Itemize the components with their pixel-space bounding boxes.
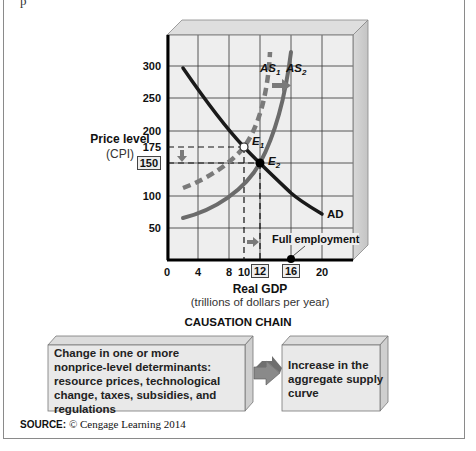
source-line: SOURCE: © Cengage Learning 2014 <box>20 418 186 430</box>
x-tick-16: 16 <box>279 265 303 277</box>
x-tick-12: 12 <box>248 265 272 277</box>
e2-label: E2 <box>268 155 280 170</box>
e1-label: E1 <box>252 135 264 150</box>
y-tick-300: 300 <box>131 60 161 72</box>
y-tick-100: 100 <box>131 190 161 202</box>
chart-box-top-face <box>167 20 368 35</box>
x-tick-20: 20 <box>310 266 334 278</box>
as1-label: AS1 <box>260 62 280 77</box>
chain-box-2-text: Increase in the aggregate supply curve <box>288 358 383 400</box>
y-tick-175: 175 <box>131 141 161 153</box>
e2-point <box>256 159 265 168</box>
y-tick-150: 150 <box>131 157 161 169</box>
source-label: SOURCE: <box>20 419 66 430</box>
ad-label: AD <box>327 208 344 220</box>
full-employment-label: Full employment <box>272 233 359 245</box>
full-employment-point <box>287 255 295 263</box>
causation-chain-title: CAUSATION CHAIN <box>0 316 476 328</box>
chart-box-right-face <box>353 20 368 260</box>
e1-point <box>240 143 248 151</box>
x-axis-label: Real GDP <box>160 282 360 296</box>
y-tick-200: 200 <box>131 125 161 137</box>
x-tick-4: 4 <box>186 266 210 278</box>
chain-box-1-text: Change in one or more nonprice-level det… <box>54 346 220 416</box>
x-axis-sublabel: (trillions of dollars per year) <box>160 296 360 308</box>
as2-label: AS2 <box>286 62 306 77</box>
y-tick-50: 50 <box>131 222 161 234</box>
y-tick-250: 250 <box>131 92 161 104</box>
x-tick-0: 0 <box>155 266 179 278</box>
source-text: © Cengage Learning 2014 <box>66 418 186 430</box>
chain-arrow-icon <box>254 356 282 385</box>
